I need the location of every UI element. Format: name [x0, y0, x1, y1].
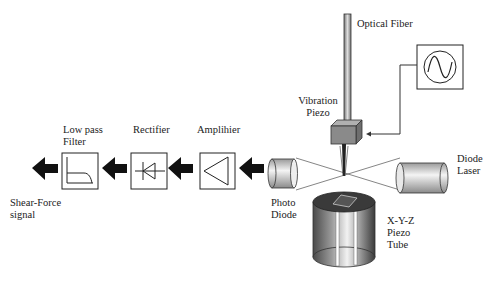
diode-laser-label-1: Diode	[457, 153, 483, 164]
diode-laser-label-2: Laser	[457, 165, 481, 176]
left-block-arrow-icon	[32, 157, 58, 180]
photo-diode	[268, 159, 298, 188]
optical-fiber	[344, 14, 351, 121]
laser-beam	[296, 158, 400, 190]
photo-diode-label-1: Photo	[271, 197, 296, 208]
low-pass-label-1: Low pass	[63, 124, 103, 135]
optical-fiber-label: Optical Fiber	[357, 18, 413, 29]
rectifier-block	[131, 153, 167, 189]
vibration-piezo	[331, 120, 362, 144]
wire-arrowhead	[366, 132, 371, 137]
output-label-1: Shear-Force	[10, 197, 61, 208]
shear-force-setup-diagram: Optical Fiber Vibration Piezo Diode Lase…	[0, 0, 490, 281]
low-pass-label-2: Filter	[63, 136, 86, 147]
vibration-piezo-label-1: Vibration	[298, 95, 338, 106]
oscillator	[417, 45, 463, 89]
output-label-2: signal	[10, 209, 35, 220]
piezo-tube-label-2: Piezo	[387, 227, 410, 238]
low-pass-filter-block	[62, 153, 98, 189]
photo-diode-label-2: Diode	[271, 209, 297, 220]
amplifier-block	[200, 153, 235, 189]
vibration-piezo-label-2: Piezo	[306, 107, 329, 118]
xyz-piezo-tube	[313, 192, 375, 267]
left-block-arrow-icon	[102, 157, 127, 180]
oscillator-wire	[368, 65, 417, 134]
diode-laser	[396, 163, 448, 193]
left-block-arrow-icon	[168, 157, 193, 180]
rectifier-label: Rectifier	[133, 124, 170, 135]
piezo-tube-label-1: X-Y-Z	[387, 215, 414, 226]
amplifier-label: Amplihier	[197, 124, 241, 135]
left-block-arrow-icon	[239, 157, 264, 180]
piezo-tube-label-3: Tube	[387, 239, 409, 250]
